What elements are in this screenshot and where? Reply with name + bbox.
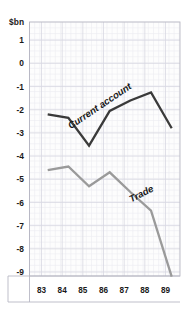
y-axis-unit-label: $bn	[9, 17, 24, 27]
x-tick-label: 84	[58, 286, 68, 295]
y-tick-label: -5	[17, 174, 25, 184]
y-tick-label: -2	[17, 105, 25, 115]
y-tick-label: 0	[19, 58, 24, 68]
y-tick-label: -6	[17, 198, 25, 208]
plot-area-background	[30, 22, 181, 276]
x-tick-label: 89	[161, 286, 171, 295]
y-tick-label: 1	[19, 35, 24, 45]
y-tick-label: -4	[17, 151, 25, 161]
y-tick-label: -8	[17, 244, 25, 254]
chart-container: 10-1-2-3-4-5-6-7-8-9 83848586878889 Curr…	[0, 0, 187, 310]
y-tick-label: -1	[17, 82, 25, 92]
y-axis-unit-label-text: $bn	[9, 17, 24, 27]
y-tick-label: -3	[17, 128, 25, 138]
x-tick-label: 85	[78, 286, 88, 295]
y-tick-label: -9	[17, 267, 25, 277]
x-tick-label: 87	[120, 286, 130, 295]
x-tick-label: 88	[140, 286, 150, 295]
line-chart-figure: 10-1-2-3-4-5-6-7-8-9 83848586878889 Curr…	[0, 0, 187, 310]
x-tick-label: 86	[99, 286, 109, 295]
x-tick-label: 83	[37, 286, 47, 295]
y-tick-label: -7	[17, 221, 25, 231]
